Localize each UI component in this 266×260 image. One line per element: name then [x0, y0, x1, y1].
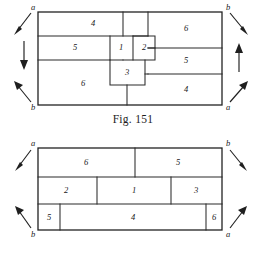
figure-151-block: 4 6 5 1 2 5 3 6 4 a b b a — [0, 0, 266, 130]
fig152-arrow-bottom-right-outward — [230, 206, 247, 228]
fig152-piece-label-2-middle-left: 2 — [64, 185, 69, 195]
fig151-piece-label-4-top-left: 4 — [91, 18, 96, 28]
fig152-corner-label-a-bottom-right: a — [226, 229, 230, 239]
fig151-arrow-right-up — [235, 43, 243, 72]
fig151-arrow-left-down — [20, 41, 28, 70]
fig152-piece-label-6-top-left: 6 — [84, 157, 89, 167]
figure-151-diagram: 4 6 5 1 2 5 3 6 4 a b b a — [0, 0, 266, 112]
fig152-piece-label-6-bottom-right: 6 — [212, 212, 217, 222]
fig152-arrow-bottom-left-outward — [15, 206, 31, 228]
fig151-piece-label-6-top-right: 6 — [184, 23, 189, 33]
fig151-piece-label-6-bottom-left: 6 — [81, 78, 86, 88]
fig151-arrow-bottom-left-outward — [14, 81, 31, 102]
fig151-corner-label-a-top-left: a — [31, 2, 35, 12]
figure-151-caption: Fig. 151 — [0, 113, 266, 125]
fig151-piece-label-5-right: 5 — [184, 55, 188, 65]
fig152-corner-label-b-bottom-left: b — [31, 229, 35, 239]
fig152-piece-label-5-top-right: 5 — [176, 157, 180, 167]
fig151-corner-label-b-bottom-left: b — [31, 102, 35, 112]
fig152-corner-label-a-top-left: a — [31, 138, 35, 148]
fig152-arrow-top-right-outward — [230, 150, 247, 171]
fig151-outer-rectangle — [38, 12, 222, 105]
figure-152-diagram: 6 5 2 1 3 5 4 6 a b b a — [0, 130, 266, 240]
fig151-piece-label-4-bottom-right: 4 — [184, 84, 189, 94]
fig151-corner-label-b-top-right: b — [226, 2, 230, 12]
fig152-piece-label-4-bottom-center: 4 — [131, 212, 136, 222]
fig152-piece-label-1-middle-center: 1 — [132, 185, 136, 195]
fig151-piece-label-1-center: 1 — [119, 42, 123, 52]
figure-152-block: 6 5 2 1 3 5 4 6 a b b a Fig. 152 — [0, 130, 266, 260]
fig151-arrow-top-right-outward — [230, 13, 248, 35]
fig152-piece-label-5-bottom-left: 5 — [47, 212, 51, 222]
fig151-arrow-top-left-outward — [14, 13, 31, 35]
fig151-piece-label-5-left: 5 — [73, 42, 77, 52]
fig152-corner-label-b-top-right: b — [226, 138, 230, 148]
fig151-arrow-bottom-right-outward — [230, 81, 248, 102]
fig151-piece-label-2-center: 2 — [142, 42, 147, 52]
fig151-corner-label-a-bottom-right: a — [226, 102, 230, 112]
fig152-piece-label-3-middle-right: 3 — [193, 185, 198, 195]
fig151-piece-label-3-center: 3 — [124, 67, 129, 77]
fig152-arrow-top-left-outward — [15, 150, 31, 171]
